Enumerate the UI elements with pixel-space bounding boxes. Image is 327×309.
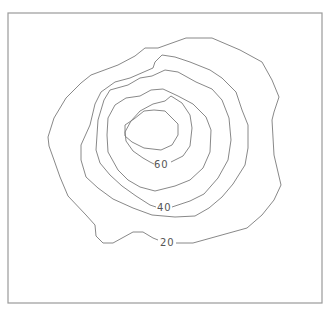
contour-line-70 <box>125 110 178 150</box>
contour-plot: 20 40 60 <box>0 0 327 309</box>
contour-label-60: 60 <box>154 159 169 170</box>
contour-labels: 20 40 60 <box>154 159 175 248</box>
contour-line-50 <box>107 89 211 191</box>
contour-line-60 <box>125 96 192 164</box>
contour-label-40: 40 <box>157 202 172 213</box>
contour-label-20: 20 <box>160 237 175 248</box>
contour-line-30 <box>81 55 248 217</box>
